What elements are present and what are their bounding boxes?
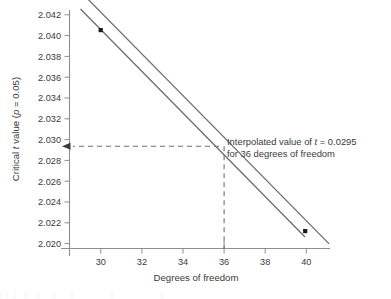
x-tick-marks [101,241,306,254]
x-tick-label: 34 [178,257,188,267]
annotation-line-2: for 36 degrees of freedom [227,148,335,159]
y-axis-title-pre: Critical [10,149,21,181]
annotation-line-1-post: = 0.0295 [317,136,356,147]
data-point-marker [303,229,307,233]
y-tick-label: 2.026 [38,177,61,187]
y-tick-label: 2.020 [38,239,61,249]
y-tick-label: 2.022 [38,218,61,228]
y-tick-label: 2.028 [38,156,61,166]
y-tick-label: 2.032 [38,114,61,124]
y-tick-label: 2.042 [38,10,61,20]
x-tick-label: 38 [260,257,270,267]
interpolation-arrowhead-icon [62,143,71,150]
x-tick-label: 32 [137,257,147,267]
y-tick-label: 2.036 [38,73,61,83]
figure-container: 2.020 2.022 2.024 2.026 2.028 2.030 2.03… [0,0,391,299]
y-axis-title-post: = 0.05) [10,77,21,110]
y-tick-label: 2.040 [38,31,61,41]
x-axis-title: Degrees of freedom [154,272,239,283]
trend-line-visible [81,9,306,237]
x-tick-label: 40 [301,257,311,267]
page-edge-artifact [0,291,391,299]
y-tick-label: 2.038 [38,52,61,62]
y-axis-title: Critical t value (p = 0.05) [10,77,21,181]
data-point-marker [99,28,103,32]
y-tick-marks [65,15,70,244]
trend-line [78,0,329,244]
y-tick-label: 2.024 [38,197,61,207]
x-tick-label: 36 [219,257,229,267]
annotation-line-1: Interpolated value of t = 0.0295 [227,136,357,147]
y-axis-title-mid: value ( [10,114,21,146]
y-tick-label: 2.034 [38,93,61,103]
y-tick-label: 2.030 [38,135,61,145]
x-tick-label: 30 [96,257,106,267]
annotation-line-1-pre: Interpolated value of [227,136,315,147]
interpolation-line-chart: 2.020 2.022 2.024 2.026 2.028 2.030 2.03… [0,0,391,299]
